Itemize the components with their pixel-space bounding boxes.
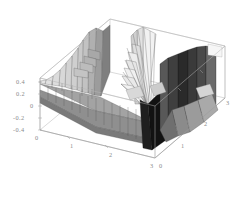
y-tick-0: 0 <box>159 162 163 169</box>
z-tick-0: 0.4 <box>16 78 26 85</box>
x-tick-0: 0 <box>35 134 39 141</box>
figure-canvas: 0.4 0.2 0 -0.2 -0.4 0 1 2 3 0 1 2 3 <box>0 0 250 199</box>
y-tick-3: 3 <box>226 99 230 106</box>
surface-mesh-left <box>40 25 110 96</box>
y-tick-1: 1 <box>181 142 185 149</box>
x-tick-3: 3 <box>150 162 154 169</box>
z-tick-1: 0.2 <box>16 90 25 97</box>
z-axis-tick-labels: 0.4 0.2 0 -0.2 -0.4 <box>13 78 34 133</box>
surface-plot-3d: 0.4 0.2 0 -0.2 -0.4 0 1 2 3 0 1 2 3 <box>0 0 250 199</box>
y-tick-2: 2 <box>204 120 208 127</box>
z-tick-3: -0.2 <box>13 114 25 121</box>
z-tick-4: -0.4 <box>13 126 25 133</box>
x-tick-1: 1 <box>70 142 74 149</box>
x-tick-2: 2 <box>109 151 113 158</box>
z-tick-2: 0 <box>30 102 34 109</box>
